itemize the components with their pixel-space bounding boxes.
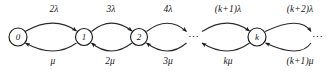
backward-arc-2-to-1 <box>92 43 133 51</box>
forward-arcs-group <box>25 23 311 31</box>
forward-arc-2-to-ellipsis <box>147 23 187 31</box>
state-node-k-label: k <box>255 33 259 42</box>
forward-rate-label-1: 3λ <box>106 5 115 15</box>
backward-arcs-group <box>26 43 312 51</box>
backward-arc-ellipsis-to-2 <box>147 43 187 51</box>
forward-rate-label-3: (k+1)λ <box>215 5 241 15</box>
forward-rate-label-0: 2λ <box>49 5 58 15</box>
state-node-0-label: 0 <box>16 33 21 42</box>
ellipsis-middle: ⋯ <box>188 32 200 43</box>
ellipsis-right: ⋯ <box>312 32 324 43</box>
backward-rate-label-0: μ <box>51 57 56 67</box>
forward-rate-label-2: 4λ <box>163 5 172 15</box>
forward-arc-k-to-ellipsis <box>265 23 311 31</box>
backward-arc-k-to-ellipsis <box>202 43 250 51</box>
forward-arc-ellipsis-to-k <box>202 23 250 31</box>
backward-rate-label-2: 3μ <box>163 57 173 67</box>
markov-chain-diagram: 0 1 2 ⋯ k ⋯ 2λ 3λ 4λ (k+1)λ (k+2)λ μ 2μ … <box>0 0 332 72</box>
backward-arc-ellipsis-to-k <box>266 43 312 51</box>
forward-rate-label-4: (k+2)λ <box>287 5 313 15</box>
backward-rate-label-4: (k+1)μ <box>286 57 313 67</box>
state-node-1-label: 1 <box>82 33 87 42</box>
backward-rate-label-3: kμ <box>223 57 232 67</box>
state-node-2-label: 2 <box>137 33 142 42</box>
forward-arc-0-to-1 <box>25 23 77 31</box>
backward-rate-label-1: 2μ <box>105 57 115 67</box>
forward-arc-1-to-2 <box>92 23 133 31</box>
backward-arc-1-to-0 <box>26 43 77 51</box>
